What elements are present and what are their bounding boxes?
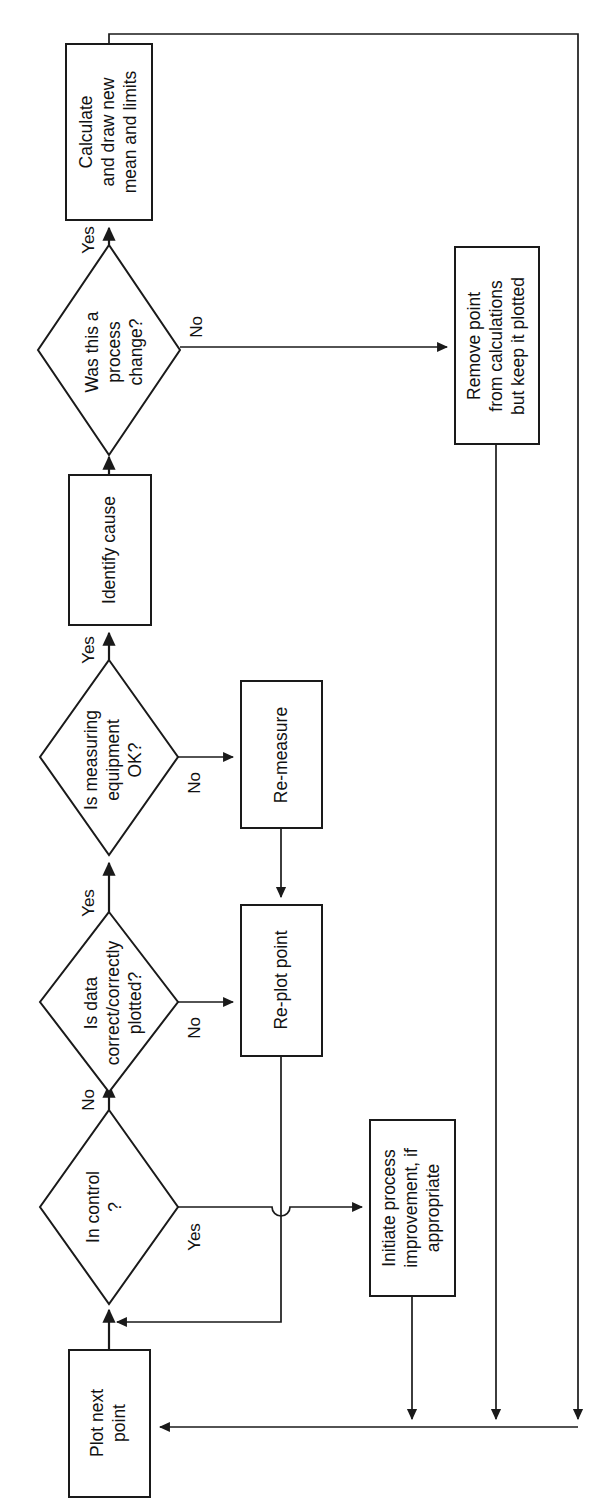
svg-text:Identify cause: Identify cause — [99, 496, 119, 604]
svg-text:OK?: OK? — [125, 742, 145, 777]
node-re-measure-label: Re-measure — [271, 707, 291, 803]
edge-in-control-yes — [178, 1207, 362, 1216]
svg-text:Initiate process: Initiate process — [379, 1149, 399, 1267]
svg-text:?: ? — [105, 1202, 125, 1212]
svg-text:No: No — [185, 772, 204, 794]
edge-label-data-no: No — [185, 1017, 204, 1039]
flowchart-svg: Calculate and draw new mean and limits W… — [0, 0, 611, 1512]
edge-label-process-change-no: No — [187, 316, 206, 338]
edge-label-measuring-yes: Yes — [79, 636, 98, 664]
svg-text:Yes: Yes — [185, 1223, 204, 1251]
svg-text:In control: In control — [83, 1171, 103, 1243]
svg-text:plotted?: plotted? — [125, 972, 145, 1035]
svg-text:Re-measure: Re-measure — [271, 707, 291, 803]
svg-text:and draw new: and draw new — [98, 77, 118, 186]
svg-text:process: process — [104, 321, 124, 383]
svg-text:Remove point: Remove point — [464, 292, 484, 400]
svg-text:but keep it plotted: but keep it plotted — [508, 277, 528, 415]
node-process-change-label: Was this a process change? — [82, 311, 146, 392]
svg-text:Yes: Yes — [79, 226, 98, 254]
svg-text:Re-plot point: Re-plot point — [271, 930, 291, 1029]
svg-text:mean and limits: mean and limits — [120, 70, 140, 193]
svg-text:No: No — [185, 1017, 204, 1039]
svg-text:No: No — [79, 1089, 98, 1111]
node-identify-cause-label: Identify cause — [99, 496, 119, 604]
node-re-plot-label: Re-plot point — [271, 930, 291, 1029]
svg-text:Was this a: Was this a — [82, 311, 102, 392]
svg-text:change?: change? — [126, 318, 146, 385]
svg-text:point: point — [109, 1404, 129, 1442]
svg-text:improvement, if: improvement, if — [401, 1148, 421, 1268]
node-initiate-improvement-label: Initiate process improvement, if appropr… — [379, 1148, 443, 1268]
svg-text:from calculations: from calculations — [486, 280, 506, 412]
svg-text:appropriate: appropriate — [423, 1164, 443, 1253]
edge-label-measuring-no: No — [185, 772, 204, 794]
svg-text:correct/correctly: correct/correctly — [103, 941, 123, 1066]
edge-label-process-change-yes: Yes — [79, 226, 98, 254]
svg-text:Is data: Is data — [81, 976, 101, 1029]
node-remove-point-label: Remove point from calculations but keep … — [464, 277, 528, 415]
svg-text:Is measuring: Is measuring — [81, 710, 101, 810]
edge-label-data-yes: Yes — [79, 889, 98, 917]
svg-text:No: No — [187, 316, 206, 338]
svg-text:Yes: Yes — [79, 889, 98, 917]
svg-text:Yes: Yes — [79, 636, 98, 664]
edge-calculate-to-bottom-bus — [109, 34, 578, 1419]
svg-text:equipment: equipment — [103, 719, 123, 801]
edge-label-in-control-yes: Yes — [185, 1223, 204, 1251]
edge-label-in-control-no: No — [79, 1089, 98, 1111]
svg-text:Calculate: Calculate — [76, 96, 96, 169]
svg-text:Plot next: Plot next — [87, 1389, 107, 1457]
flowchart-canvas: Calculate and draw new mean and limits W… — [0, 0, 611, 1512]
